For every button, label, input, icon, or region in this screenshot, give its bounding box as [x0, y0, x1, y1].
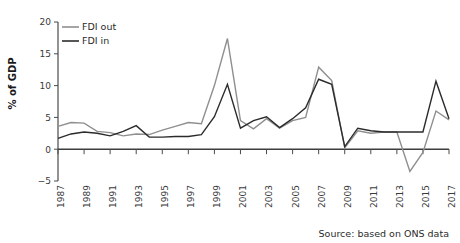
y-tick-label: 5 [45, 113, 51, 123]
x-tick-label: 1993 [134, 185, 144, 208]
chart-page: −505101520198719891991199319951997199920… [0, 0, 460, 243]
legend-label-fdi-in: FDI in [82, 35, 109, 46]
x-tick-label: 1999 [212, 185, 222, 208]
y-tick-label: 20 [40, 17, 52, 27]
source-note: Source: based on ONS data [319, 228, 449, 239]
y-tick-label: −5 [38, 176, 51, 186]
y-tick-label: 10 [40, 81, 52, 91]
x-tick-label: 1989 [82, 185, 92, 208]
y-tick-label: 0 [45, 145, 51, 155]
x-tick-label: 2015 [421, 185, 431, 208]
x-tick-label: 2009 [343, 185, 353, 208]
x-tick-label: 2011 [369, 185, 379, 208]
x-tick-label: 1991 [108, 185, 118, 208]
legend-label-fdi-out: FDI out [82, 21, 116, 32]
y-axis-title: % of GDP [7, 57, 18, 109]
x-tick-label: 2007 [317, 185, 327, 208]
x-tick-label: 2013 [395, 185, 405, 208]
series-line-fdi-out [58, 39, 449, 172]
x-tick-label: 1997 [186, 185, 196, 208]
x-tick-label: 2003 [264, 185, 274, 208]
series-line-fdi-in [58, 79, 449, 146]
x-tick-label: 2005 [291, 185, 301, 208]
y-tick-label: 15 [40, 49, 51, 59]
x-tick-label: 1995 [160, 185, 170, 208]
x-tick-label: 2001 [238, 185, 248, 208]
x-tick-label: 2017 [447, 185, 457, 208]
fdi-line-chart: −505101520198719891991199319951997199920… [0, 0, 460, 243]
x-tick-label: 1987 [56, 185, 66, 208]
